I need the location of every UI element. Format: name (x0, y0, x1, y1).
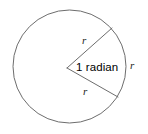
lower-radius-label: r (83, 86, 87, 97)
radian-diagram-svg (0, 0, 148, 134)
radian-diagram: r r r 1 radian (0, 0, 148, 134)
arc-length-label: r (130, 60, 134, 71)
angle-measure-label: 1 radian (76, 62, 118, 74)
upper-radius-label: r (82, 35, 86, 46)
